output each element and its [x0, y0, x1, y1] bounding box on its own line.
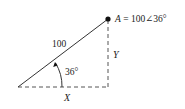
vector-line	[18, 19, 108, 87]
y-label: Y	[113, 49, 120, 60]
hypotenuse-label: 100	[52, 39, 67, 49]
point-a-label: A = 100∠36°	[114, 14, 167, 24]
point-a-dot	[105, 16, 110, 21]
angle-arc	[56, 63, 63, 87]
phasor-diagram: A = 100∠36° 100 36° Y X	[0, 0, 185, 109]
angle-label: 36°	[65, 67, 79, 77]
x-label: X	[63, 92, 71, 103]
